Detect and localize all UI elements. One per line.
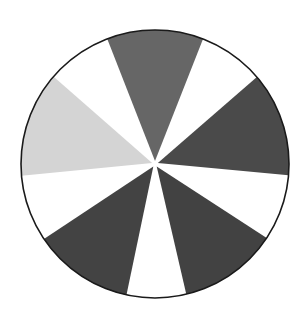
- sector-lower-left: [44, 166, 153, 294]
- diagram-canvas: [0, 0, 306, 328]
- sector-lower-right: [157, 166, 267, 294]
- sector-group: [21, 30, 289, 295]
- segmented-circle-diagram: [0, 0, 306, 328]
